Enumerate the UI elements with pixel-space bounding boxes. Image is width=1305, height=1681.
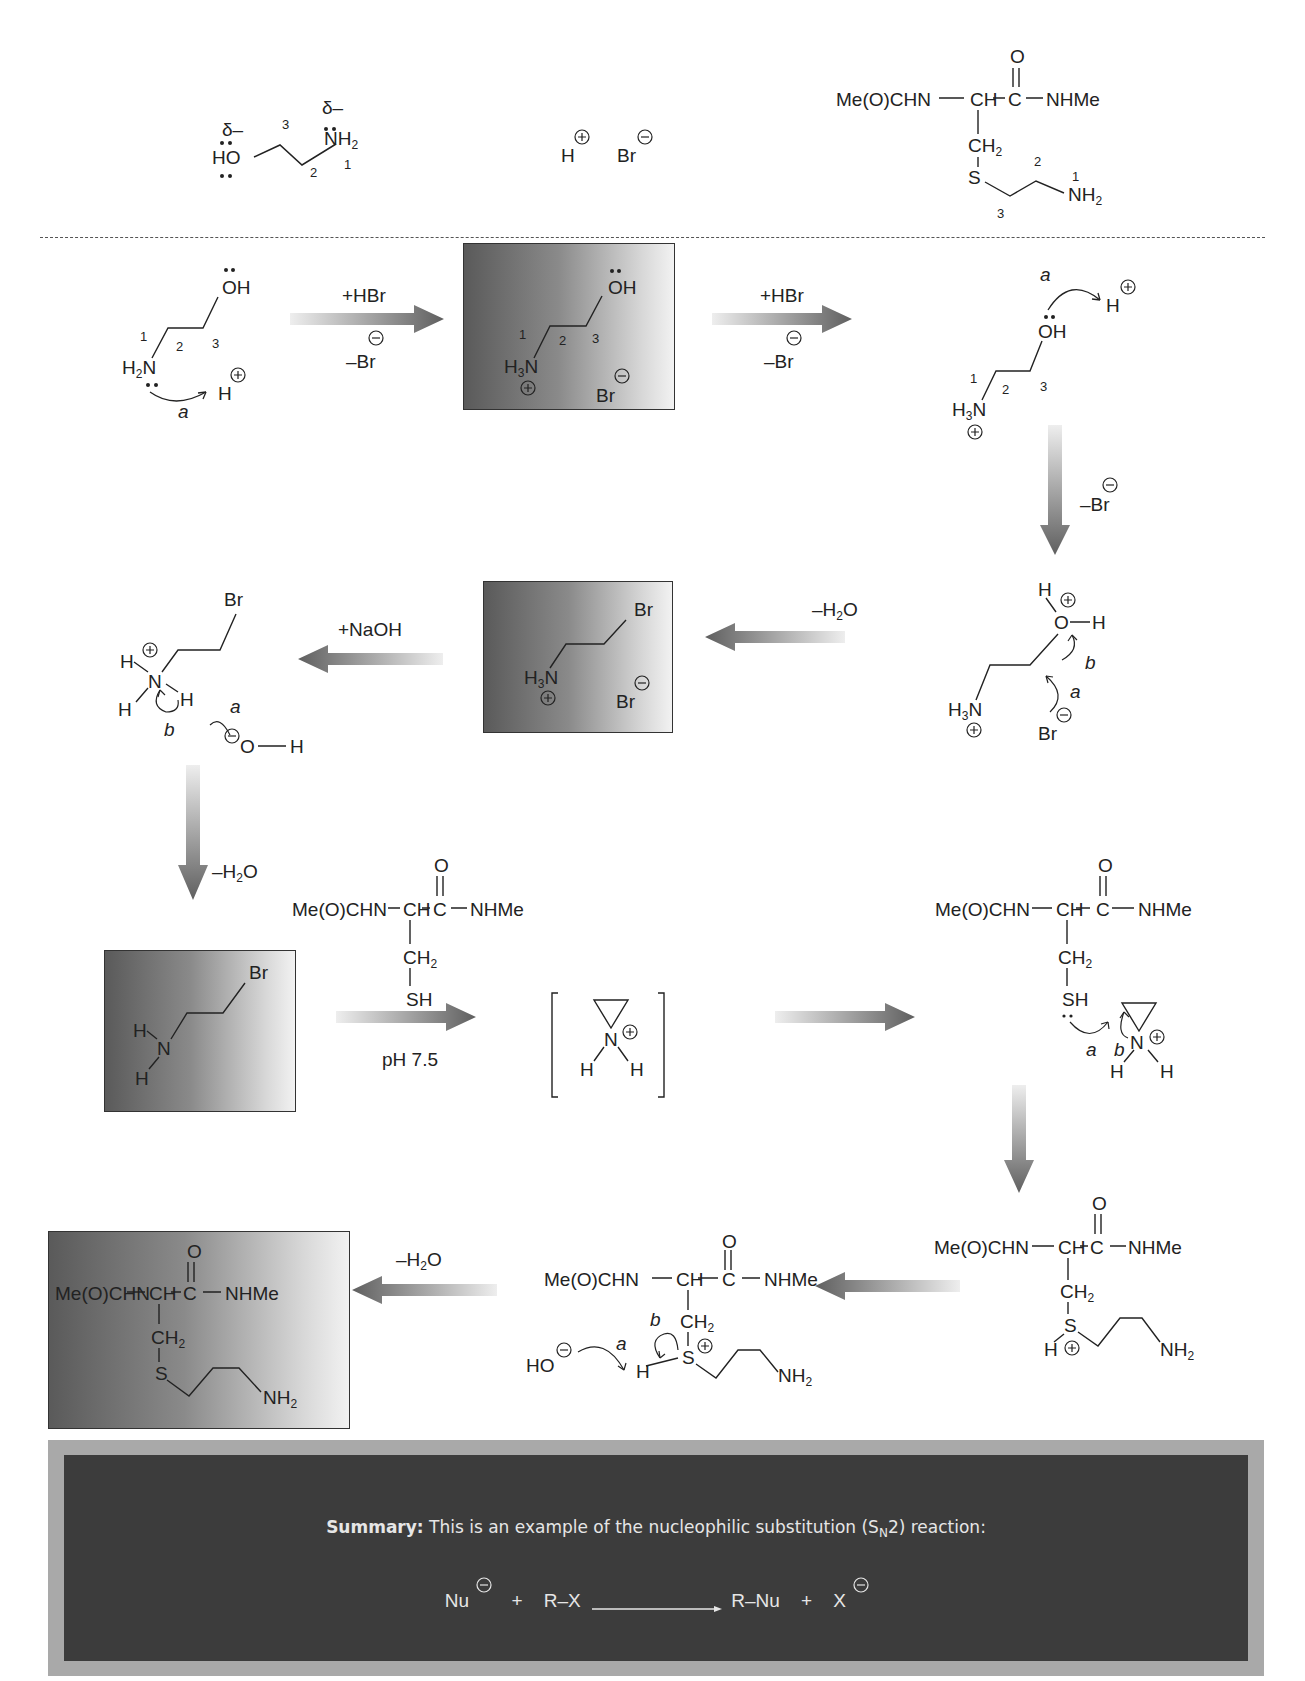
atom-sh: SH	[1062, 990, 1088, 1009]
atom-ch: CH	[970, 90, 997, 109]
intermediate-box-bromoethylamine: Br H N H	[104, 950, 296, 1112]
minus-charge-icon	[476, 1576, 492, 1592]
atom-oh: OH	[608, 278, 637, 297]
atom-o: O	[187, 1242, 202, 1261]
atom-nhme: NHMe	[1046, 90, 1100, 109]
bromide: Br	[617, 146, 636, 165]
arrow3-label: –Br	[1080, 495, 1110, 514]
atom-h: H	[580, 1060, 594, 1079]
atom-nhme: NHMe	[225, 1284, 279, 1303]
atom-h: H	[1038, 580, 1052, 599]
atom-oh: OH	[1038, 322, 1067, 341]
minus-charge-icon	[853, 1576, 869, 1592]
locant-2: 2	[559, 334, 566, 347]
atom-br: Br	[634, 600, 653, 619]
atom-s: S	[682, 1348, 695, 1367]
atom-h: H	[1092, 613, 1106, 632]
down-arrow-icon	[1040, 425, 1070, 565]
atom-c: C	[183, 1284, 197, 1303]
delta-minus-o: δ–	[222, 120, 243, 139]
locant-2: 2	[310, 166, 317, 179]
atom-c: C	[722, 1270, 736, 1289]
locant-1: 1	[519, 328, 526, 341]
delta-minus-n: δ–	[322, 98, 343, 117]
atom-nhme: NHMe	[1128, 1238, 1182, 1257]
locant-3: 3	[1040, 380, 1047, 393]
arrow7-label: pH 7.5	[382, 1050, 438, 1069]
arrow1-top-label: +HBr	[342, 286, 386, 305]
atom-h3n: H3N	[948, 700, 982, 722]
atom-ho: HO	[212, 148, 241, 167]
product: R–Nu	[731, 1590, 780, 1611]
bromide: Br	[1038, 724, 1057, 743]
atom-s: S	[1064, 1316, 1077, 1335]
arrow-label-a: a	[1040, 265, 1051, 284]
atom-s: S	[155, 1364, 168, 1383]
arrow-label-a: a	[616, 1334, 627, 1353]
nucleophile: Nu	[445, 1590, 469, 1611]
arrow1-bottom-label: –Br	[346, 352, 376, 371]
atom-o: O	[722, 1232, 737, 1251]
arrow4-label: –H2O	[812, 600, 858, 622]
intermediate-box-ammonium-alcohol: OH H3N 1 2 3 Br	[463, 243, 675, 410]
atom-ch2: CH2	[1060, 1282, 1094, 1304]
atom-o: O	[1054, 613, 1069, 632]
atom-h: H	[135, 1069, 149, 1088]
atom-n: N	[157, 1039, 171, 1058]
step10-bonds	[0, 0, 1, 1]
locant-2: 2	[1002, 383, 1009, 396]
arrow-label-a: a	[1086, 1040, 1097, 1059]
atom-ch: CH	[1058, 1238, 1085, 1257]
atom-o: O	[434, 856, 449, 875]
atom-ch: CH	[1056, 900, 1083, 919]
atom-ho: HO	[526, 1356, 555, 1375]
atom-h: H	[1044, 1340, 1058, 1359]
atom-ch2: CH2	[968, 136, 1002, 158]
arrow2-top-label: +HBr	[760, 286, 804, 305]
intermediate-box-bromoethylammonium: Br H3N Br	[483, 581, 673, 733]
atom-oh: OH	[222, 278, 251, 297]
atom-ch2: CH2	[151, 1328, 185, 1350]
arrow-label-a: a	[230, 697, 241, 716]
proton: H	[1106, 296, 1120, 315]
atom-n: N	[1130, 1033, 1144, 1052]
atom-ch: CH	[676, 1270, 703, 1289]
left-arrow-icon	[705, 623, 855, 653]
atom-h: H	[133, 1021, 147, 1040]
atom-c: C	[1008, 90, 1022, 109]
atom-nh2: NH2	[1160, 1340, 1194, 1362]
summary-panel: Summary: This is an example of the nucle…	[48, 1440, 1264, 1676]
plus-sign: +	[801, 1590, 812, 1611]
locant-1: 1	[970, 372, 977, 385]
arrow-label-b: b	[164, 720, 175, 739]
atom-nh2: NH2	[778, 1366, 812, 1388]
proton: H	[561, 146, 575, 165]
locant-2: 2	[1034, 155, 1041, 168]
final-product-box: O Me(O)CHN CH C NHMe CH2 S NH2	[48, 1231, 350, 1429]
atom-n: N	[604, 1030, 618, 1049]
atom-n: N	[148, 672, 162, 691]
atom-br: Br	[224, 590, 243, 609]
bromide: Br	[596, 386, 615, 405]
atom-h3n: H3N	[504, 357, 538, 379]
summary-text: Summary: This is an example of the nucle…	[64, 1517, 1248, 1540]
atom-h: H	[180, 690, 194, 709]
atom-br: Br	[249, 963, 268, 982]
atom-h: H	[1110, 1062, 1124, 1081]
right-arrow-icon	[336, 1003, 486, 1033]
plus-sign: +	[512, 1590, 523, 1611]
locant-3: 3	[997, 207, 1004, 220]
atom-h3n: H3N	[952, 400, 986, 422]
section-divider	[40, 237, 1265, 238]
box2-bonds	[484, 582, 485, 583]
box1-bonds	[464, 244, 465, 245]
atom-me-o-chn: Me(O)CHN	[934, 1238, 1029, 1257]
atom-h2n: H2N	[122, 358, 156, 380]
atom-h: H	[118, 700, 132, 719]
atom-h: H	[1160, 1062, 1174, 1081]
atom-me-o-chn: Me(O)CHN	[836, 90, 931, 109]
atom-me-o-chn: Me(O)CHN	[55, 1284, 150, 1303]
down-arrow-icon	[178, 765, 208, 905]
arrow-label-a: a	[1070, 682, 1081, 701]
locant-3: 3	[282, 118, 289, 131]
